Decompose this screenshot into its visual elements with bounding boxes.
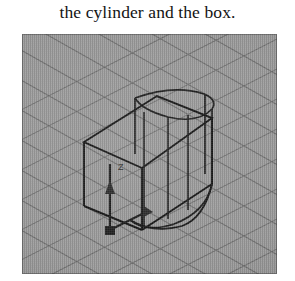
origin-marker xyxy=(105,226,115,235)
viewport-canvas: Z xyxy=(22,34,277,274)
figure-caption: the cylinder and the box. xyxy=(0,1,295,23)
viewport-background xyxy=(22,34,277,274)
scanned-page-fragment: the cylinder and the box. xyxy=(0,0,295,281)
3d-viewport-screenshot: Z xyxy=(22,34,277,274)
z-axis-label: Z xyxy=(118,162,124,172)
